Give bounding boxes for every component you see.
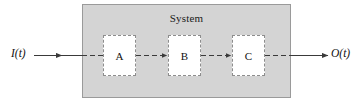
block-a-label: A [116,50,124,62]
block-c-label: C [245,50,252,62]
input-signal-label: I(t) [11,47,26,59]
block-a: A [103,35,136,76]
system-label: System [82,12,291,24]
block-b-label: B [181,50,188,62]
block-c: C [232,35,265,76]
output-signal-label: O(t) [331,47,350,59]
block-b: B [168,35,201,76]
block-diagram-canvas: System A B C I(t) O(t) [0,0,361,111]
